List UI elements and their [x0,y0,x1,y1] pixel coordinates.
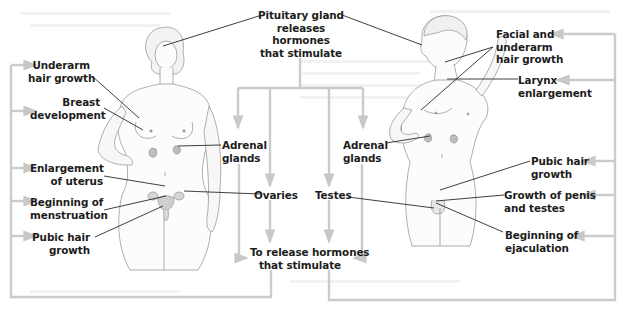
testes-label: Testes [315,189,352,202]
male-larynx-enlargement-label: Larynx enlargement [518,74,592,99]
adrenal-glands-right-label: Adrenal glands [343,139,388,164]
puberty-hormone-diagram: Pituitary gland releases hormones that s… [0,0,623,310]
ovaries-label: Ovaries [254,189,298,202]
female-menstruation-label: Beginning of menstruation [30,196,103,221]
adrenal-glands-left-label: Adrenal glands [222,139,267,164]
female-uterus-enlargement-label: Enlargement of uterus [30,162,103,187]
female-breast-development-label: Breast development [30,96,100,121]
male-facial-underarm-hair-label: Facial and underarm hair growth [496,28,563,66]
male-pubic-hair-label: Pubic hair growth [531,155,589,180]
release-hormones-label: To release hormones that stimulate [250,246,350,271]
pituitary-gland-label: Pituitary gland releases hormones that s… [255,9,347,59]
male-penis-testes-growth-label: Growth of penis and testes [504,189,596,214]
male-ejaculation-label: Beginning of ejaculation [505,229,578,254]
female-figure [98,27,221,270]
female-pubic-hair-label: Pubic hair growth [30,231,90,256]
female-underarm-hair-label: Underarm hair growth [28,59,90,84]
